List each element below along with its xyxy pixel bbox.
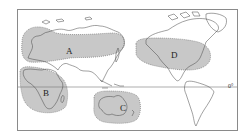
region-a <box>22 27 124 62</box>
region-label-d: D <box>171 50 178 60</box>
south-america-outline <box>185 81 215 126</box>
arctic-islands <box>42 17 92 24</box>
region-label-b: B <box>43 88 49 98</box>
greenland-outline <box>206 13 227 32</box>
equator-label: 0° <box>228 83 234 89</box>
region-label-a: A <box>66 46 73 56</box>
region-label-c: C <box>120 103 126 113</box>
world-map: A B C D 0° <box>0 0 249 138</box>
